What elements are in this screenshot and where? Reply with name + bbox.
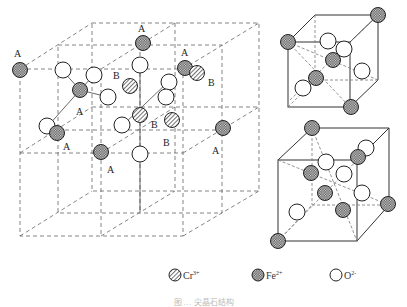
svg-text:B: B	[113, 70, 120, 81]
crosshatched-circle-icon	[252, 269, 264, 281]
svg-text:B: B	[151, 119, 158, 130]
svg-text:A: A	[138, 23, 146, 34]
legend-item-fe: Fe2+	[252, 269, 283, 281]
svg-text:Fe2+: Fe2+	[266, 270, 283, 281]
iron-atoms-main	[13, 36, 231, 160]
svg-text:A: A	[107, 164, 115, 175]
tetrahedral-cube	[281, 8, 386, 115]
svg-text:Cr3+: Cr3+	[183, 270, 200, 281]
svg-text:B: B	[163, 137, 170, 148]
svg-text:A: A	[14, 48, 22, 59]
main-cube-bonds	[48, 65, 168, 212]
svg-text:A: A	[212, 145, 220, 156]
legend-item-cr: Cr3+	[169, 269, 200, 281]
svg-text:A: A	[181, 47, 189, 58]
octahedral-cube	[271, 121, 396, 249]
site-labels: A A A B B A A B B A A	[14, 23, 220, 175]
legend: Cr3+ Fe2+ O2-	[169, 269, 356, 281]
open-circle-icon	[330, 269, 342, 281]
svg-text:A: A	[76, 106, 84, 117]
svg-text:O2-: O2-	[344, 270, 356, 281]
hatched-circle-icon	[169, 269, 181, 281]
svg-text:B: B	[208, 77, 215, 88]
legend-item-o: O2-	[330, 269, 356, 281]
oxygen-atoms-main	[39, 57, 177, 162]
svg-text:A: A	[63, 141, 71, 152]
figure-caption: 图 … 尖晶石结构	[0, 296, 407, 307]
